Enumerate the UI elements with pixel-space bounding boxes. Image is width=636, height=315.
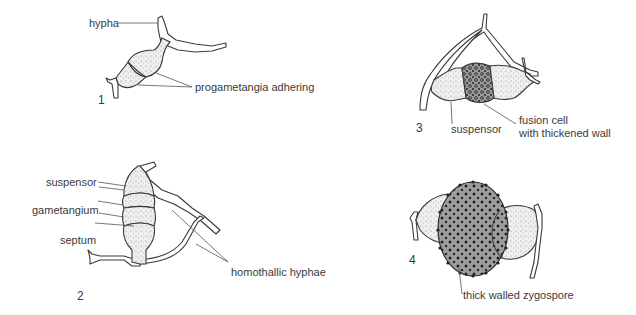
panel-number-2: 2 bbox=[77, 289, 84, 303]
label-fusion-cell-2: with thickened wall bbox=[518, 127, 611, 139]
progametangia-leader-1 bbox=[156, 73, 192, 87]
zygospore-formation-diagram: hypha progametangia adhering 1 suspensor… bbox=[0, 0, 636, 315]
panel-1: hypha progametangia adhering 1 bbox=[89, 16, 314, 107]
progametangia-leader-2 bbox=[138, 85, 192, 87]
label-suspensor-3: suspensor bbox=[451, 123, 502, 135]
label-hypha: hypha bbox=[89, 17, 120, 29]
label-suspensor: suspensor bbox=[46, 176, 97, 188]
label-septum: septum bbox=[60, 234, 96, 246]
label-zygospore: thick walled zygospore bbox=[463, 289, 574, 301]
label-gametangium-leader bbox=[98, 201, 123, 205]
suspensor-leader bbox=[99, 213, 124, 217]
label-progametangia: progametangia adhering bbox=[195, 81, 314, 93]
label-homothallic-hyphae: homothallic hyphae bbox=[231, 266, 326, 278]
left-hypha-shape bbox=[106, 78, 118, 98]
hypha-shape bbox=[158, 16, 226, 52]
fusion-cell bbox=[462, 63, 494, 102]
panel-3: suspensor fusion cell with thickened wal… bbox=[416, 14, 611, 139]
gametangium-a bbox=[123, 193, 155, 208]
label-suspensor-leader bbox=[98, 182, 126, 186]
suspensor-leader-3 bbox=[451, 102, 452, 124]
label-fusion-cell: fusion cell bbox=[519, 114, 568, 126]
panel-number-1: 1 bbox=[98, 93, 105, 107]
panel-number-3: 3 bbox=[416, 121, 423, 135]
gametangium-leader bbox=[99, 187, 124, 190]
label-gametangium: gametangium bbox=[32, 204, 99, 216]
panel-4: thick walled zygospore 4 bbox=[409, 180, 574, 301]
fusion-cell-leader bbox=[484, 104, 516, 124]
panel-2: suspensor gametangium septum homothallic… bbox=[32, 162, 326, 303]
panel-number-4: 4 bbox=[409, 253, 416, 267]
